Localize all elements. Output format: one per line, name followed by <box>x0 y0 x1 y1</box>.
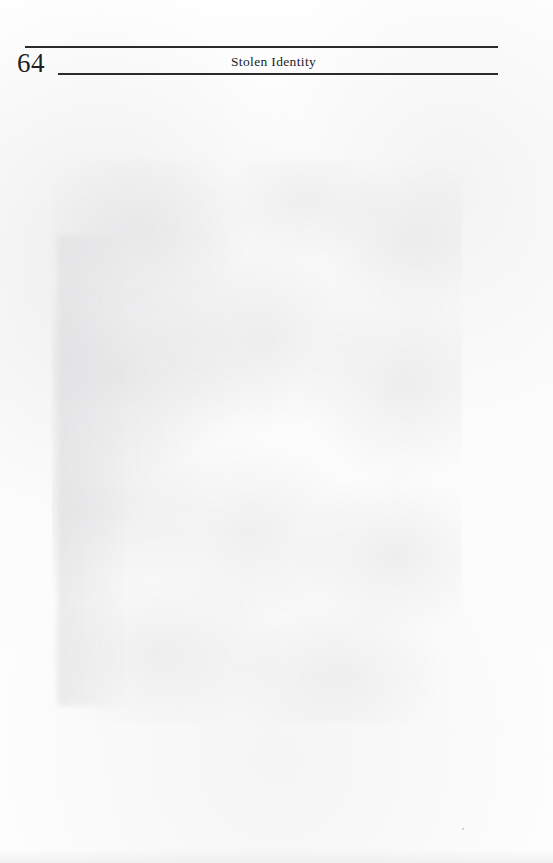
running-head-title: Stolen Identity <box>231 53 316 70</box>
header-rule-upper <box>25 46 498 48</box>
header-rule-lower <box>58 73 498 75</box>
scan-speck-artifact <box>462 828 464 830</box>
page-number: 64 <box>17 50 45 77</box>
page-header: 64 Stolen Identity <box>0 0 553 90</box>
page-body <box>25 90 498 790</box>
scanned-page: 64 Stolen Identity <box>0 0 553 863</box>
page-footer <box>0 790 553 863</box>
